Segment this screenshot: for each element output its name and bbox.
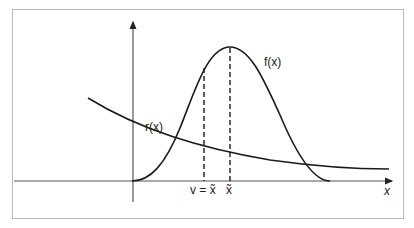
label-f: f(x) <box>264 55 281 69</box>
label-v-xtilde: v = x̃ <box>190 183 216 197</box>
label-r: r(x) <box>145 120 163 134</box>
label-xtilde: x̃ <box>226 183 232 197</box>
curve-f <box>132 47 330 181</box>
diagram-canvas: f(x) r(x) v = x̃ x̃ x <box>0 0 414 228</box>
label-x-axis: x <box>383 184 391 198</box>
